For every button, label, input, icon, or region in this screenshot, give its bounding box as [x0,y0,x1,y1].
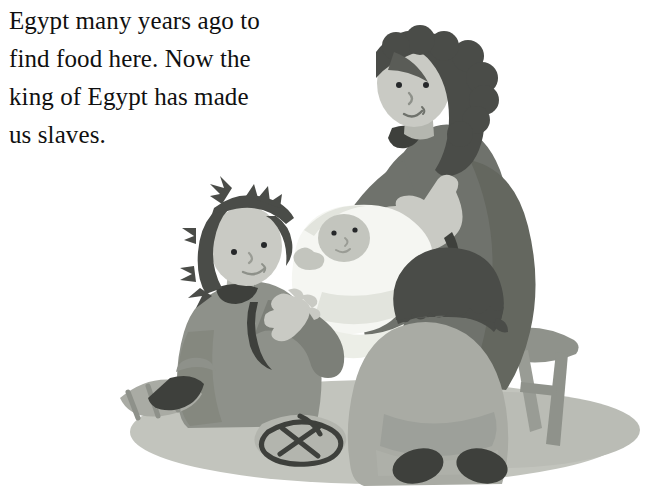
girl-eye-left [231,249,237,255]
figure-girl [120,176,344,428]
girl-eye-right [261,242,267,248]
book-page: Egypt many years ago to find food here. … [0,0,654,496]
woman-eye-right [423,82,429,88]
sandals [254,415,346,464]
woman-eye-left [396,82,402,88]
baby-eye-left [331,230,336,235]
illustration [0,0,654,496]
baby-eye-right [352,227,357,232]
